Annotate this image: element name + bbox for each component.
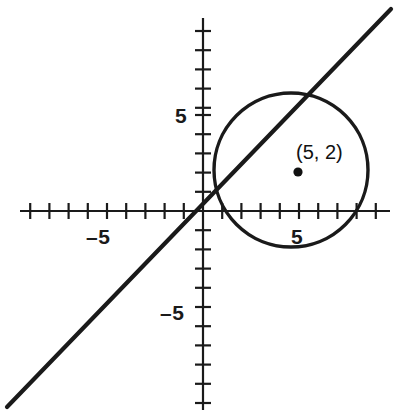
center-point-label: (5, 2) xyxy=(296,142,343,162)
x-axis-label-negative-5: –5 xyxy=(86,226,110,247)
coordinate-plane-svg xyxy=(0,0,397,415)
x-axis-label-positive-5: 5 xyxy=(291,226,303,247)
graph-figure: 5 –5 5 –5 (5, 2) xyxy=(0,0,397,415)
y-axis-label-negative-5: –5 xyxy=(160,302,184,323)
center-point-marker xyxy=(293,167,302,176)
y-axis-label-positive-5: 5 xyxy=(175,105,187,126)
